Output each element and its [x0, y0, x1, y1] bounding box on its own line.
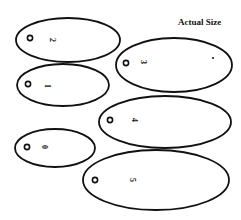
dot-mark-icon	[212, 57, 214, 59]
ellipse-size-0: 0	[15, 129, 95, 167]
ellipse-size-1: 1	[17, 64, 109, 106]
ellipse-size-5: 5	[83, 150, 229, 210]
hole-circle-icon	[27, 35, 32, 40]
ellipse-size-3: 3	[116, 38, 232, 92]
hole-circle-icon	[107, 117, 112, 122]
ellipse-diagram: 213405	[0, 0, 241, 220]
ellipse-outline	[116, 38, 232, 92]
ellipse-outline	[83, 150, 229, 210]
size-label: 1	[43, 84, 52, 88]
hole-circle-icon	[92, 177, 97, 182]
hole-circle-icon	[25, 81, 30, 86]
ellipse-outline	[99, 96, 231, 148]
size-label: 3	[139, 60, 148, 64]
size-label: 4	[130, 118, 139, 122]
ellipse-size-4: 4	[99, 96, 231, 148]
ellipse-outline	[15, 129, 95, 167]
size-label: 0	[40, 145, 49, 149]
hole-circle-icon	[123, 60, 128, 65]
actual-size-caption: Actual Size	[178, 17, 221, 27]
size-label: 5	[128, 178, 137, 182]
hole-circle-icon	[24, 144, 29, 149]
ellipse-size-2: 2	[16, 18, 120, 62]
size-label: 2	[48, 38, 57, 42]
